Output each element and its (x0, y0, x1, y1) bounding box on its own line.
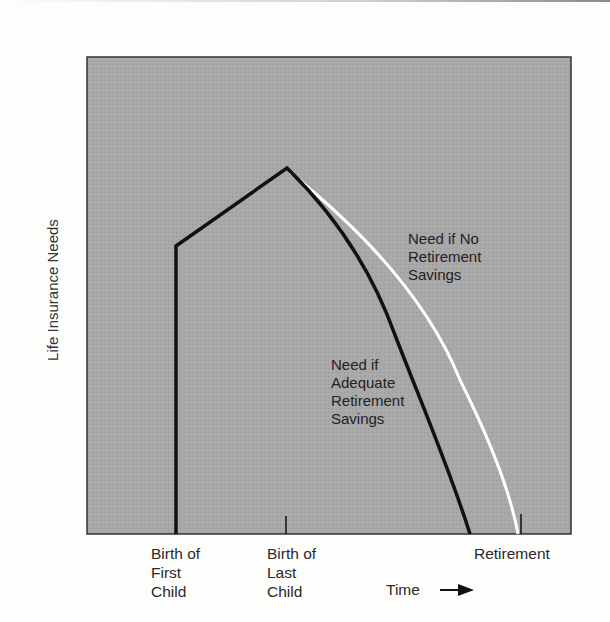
tick-label-line: First (151, 563, 200, 582)
tick-label-line: Child (151, 582, 200, 601)
x-tick-label-first-child: Birth of First Child (151, 544, 200, 601)
annotation-line: Adequate (331, 374, 404, 392)
tick-label-line: Child (267, 582, 316, 601)
annotation-line: Savings (331, 410, 404, 428)
annotation-line: Need if No (408, 230, 481, 248)
tick-label-line: Birth of (267, 544, 316, 563)
tick-label-line: Retirement (474, 544, 550, 563)
chart-plot (0, 0, 610, 622)
x-axis-label-time: Time (386, 580, 420, 599)
x-tick-label-retirement: Retirement (474, 544, 550, 563)
annotation-line: Retirement (408, 248, 481, 266)
x-axis-label-text: Time (386, 581, 420, 598)
time-arrow-head (458, 584, 474, 596)
x-tick-label-last-child: Birth of Last Child (267, 544, 316, 601)
annotation-line: Savings (408, 266, 481, 284)
y-axis-label-text: Life Insurance Needs (44, 219, 61, 361)
annotation-line: Need if (331, 356, 404, 374)
tick-label-line: Last (267, 563, 316, 582)
tick-label-line: Birth of (151, 544, 200, 563)
annotation-no-retirement-savings: Need if No Retirement Savings (408, 230, 481, 284)
annotation-line: Retirement (331, 392, 404, 410)
annotation-adequate-retirement-savings: Need if Adequate Retirement Savings (331, 356, 404, 428)
